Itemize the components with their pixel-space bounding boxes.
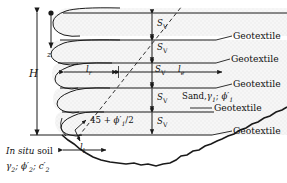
spacing-label-3: SV xyxy=(155,65,165,76)
insitu-soil-properties: γ2; ϕ′2; c′2 xyxy=(6,162,50,173)
spacing-label-5: SV xyxy=(157,117,167,128)
soil-c-sub: 2 xyxy=(46,166,50,173)
insitu-italic: In situ xyxy=(6,146,34,156)
spacing-label-2: SV xyxy=(157,43,167,54)
angle-phi: ϕ xyxy=(114,115,120,125)
ll-sub: l xyxy=(83,147,85,154)
le-sub: e xyxy=(181,69,185,76)
depth-label: z xyxy=(47,51,51,59)
spacing-sub: V xyxy=(163,47,167,54)
insitu-soil-label: In situ soil xyxy=(6,147,53,156)
sand-prefix: Sand, xyxy=(182,91,207,101)
geotextile-label-2: Geotextile xyxy=(231,54,279,63)
geotextile-label-4: Geotextile xyxy=(214,103,262,112)
height-label: H xyxy=(29,68,38,79)
soil-phi: ϕ xyxy=(21,161,27,171)
figure-root: H z SV SV SV SV SV lr le ll 45 + ϕ′1/2 S… xyxy=(0,0,287,183)
sand-phi: ϕ xyxy=(222,91,228,101)
spacing-sub: V xyxy=(163,23,167,30)
depth-dimension xyxy=(48,10,53,48)
geotextile-label-3: Geotextile xyxy=(233,79,281,88)
spacing-sub: V xyxy=(163,97,167,104)
geotextile-label-1: Geotextile xyxy=(233,31,281,40)
lr-sub: r xyxy=(89,69,92,76)
lap-length-label: ll xyxy=(80,143,85,154)
spacing-sub: V xyxy=(163,121,167,128)
soil-c: c xyxy=(39,161,44,171)
spacing-label-4: SV xyxy=(157,93,167,104)
resistant-length-label: lr xyxy=(86,65,92,76)
spacing-sub: V xyxy=(161,69,165,76)
angle-prefix: 45 + xyxy=(90,115,114,125)
spacing-label-1: SV xyxy=(157,19,167,30)
effective-length-label: le xyxy=(178,65,184,76)
insitu-rest: soil xyxy=(34,146,52,156)
angle-suffix: /2 xyxy=(125,115,133,125)
failure-angle-label: 45 + ϕ′1/2 xyxy=(90,116,134,127)
geotextile-label-5: Geotextile xyxy=(233,126,281,135)
